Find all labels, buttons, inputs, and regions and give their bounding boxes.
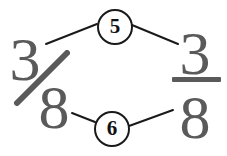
fraction-diagram: 3 8 3 8 5 6 (0, 0, 227, 156)
callout-bottom-label: 6 (107, 118, 118, 140)
callout-marker-bottom[interactable]: 6 (94, 111, 130, 147)
right-fraction-denominator: 8 (170, 86, 220, 148)
callout-marker-top[interactable]: 5 (97, 9, 133, 45)
connector-bottom-right-line (129, 110, 173, 126)
right-fraction-numerator: 3 (170, 22, 220, 84)
right-fraction-bar (172, 77, 221, 82)
callout-top-label: 5 (110, 16, 121, 38)
connector-top-left-line (46, 24, 97, 44)
left-fraction-denominator: 8 (31, 76, 77, 138)
